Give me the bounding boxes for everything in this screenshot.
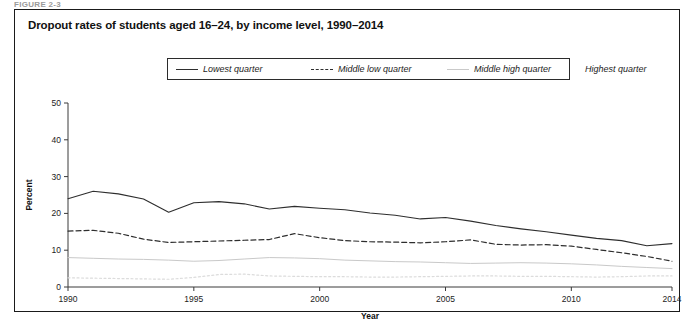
y-axis-tick-label: 30 (52, 172, 62, 182)
y-axis-tick-label: 10 (52, 245, 62, 255)
series-line-lowest-quarter (68, 191, 672, 245)
line-chart-svg: 01020304050199019952000200520102014Perce… (0, 0, 695, 324)
x-axis-tick-label: 2000 (310, 294, 329, 304)
chart-plot-area: 01020304050199019952000200520102014Perce… (0, 0, 695, 324)
x-axis-tick-label: 2014 (663, 294, 682, 304)
y-axis-title: Percent (24, 179, 34, 210)
series-line-highest-quarter (68, 274, 672, 279)
x-axis-tick-label: 2005 (436, 294, 455, 304)
y-axis-tick-label: 50 (52, 98, 62, 108)
x-axis-tick-label: 1990 (59, 294, 78, 304)
y-axis-tick-label: 20 (52, 208, 62, 218)
series-line-middle-high-quarter (68, 258, 672, 269)
y-axis-tick-label: 40 (52, 135, 62, 145)
y-axis-tick-label: 0 (56, 282, 61, 292)
x-axis-tick-label: 1995 (184, 294, 203, 304)
figure-root: FIGURE 2-3 Dropout rates of students age… (0, 0, 695, 324)
x-axis-tick-label: 2010 (562, 294, 581, 304)
x-axis-title: Year (361, 311, 380, 321)
series-line-middle-low-quarter (68, 230, 672, 261)
